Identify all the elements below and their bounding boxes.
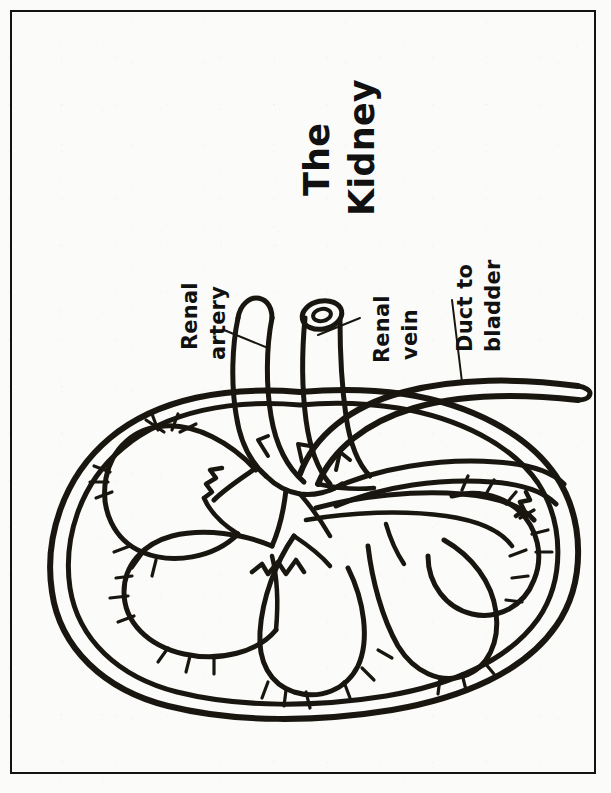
page-canvas: The Kidney Renal artery Renal vein Duct … [0,0,611,793]
page-border-frame [10,10,596,774]
